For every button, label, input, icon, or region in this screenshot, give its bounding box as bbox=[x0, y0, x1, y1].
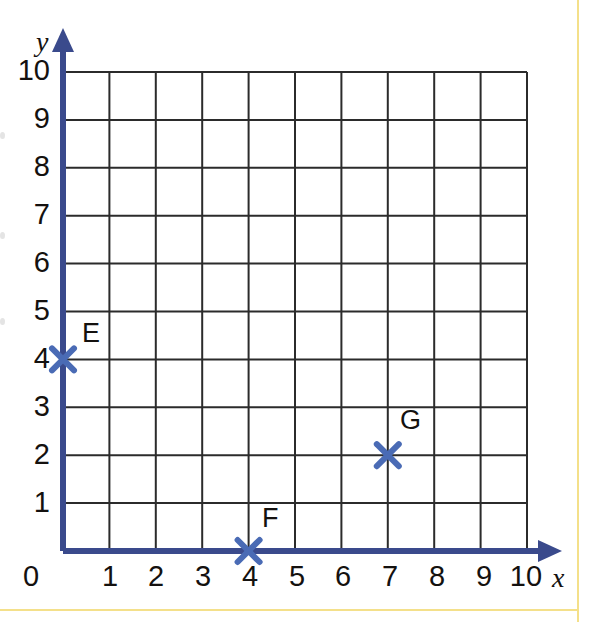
y-tick-7: 7 bbox=[6, 200, 50, 229]
y-tick-9: 9 bbox=[6, 104, 50, 133]
y-tick-2: 2 bbox=[6, 440, 50, 469]
point-label-G: G bbox=[400, 407, 421, 434]
y-axis-name: y bbox=[36, 26, 48, 58]
x-tick-7: 7 bbox=[367, 562, 413, 591]
x-tick-6: 6 bbox=[320, 562, 366, 591]
x-tick-9: 9 bbox=[461, 562, 507, 591]
y-tick-3: 3 bbox=[6, 392, 50, 421]
y-tick-6: 6 bbox=[6, 248, 50, 277]
x-tick-10: 10 bbox=[503, 562, 549, 591]
x-tick-0: 0 bbox=[8, 562, 54, 591]
worksheet-page: 10 9 8 7 6 5 4 3 2 1 0 1 2 3 4 5 6 7 8 9… bbox=[0, 0, 601, 622]
x-axis-name: x bbox=[552, 562, 564, 594]
y-tick-8: 8 bbox=[6, 152, 50, 181]
x-tick-1: 1 bbox=[87, 562, 133, 591]
point-label-F: F bbox=[262, 505, 279, 532]
x-tick-5: 5 bbox=[274, 562, 320, 591]
y-tick-10: 10 bbox=[6, 56, 50, 85]
point-label-E: E bbox=[82, 320, 100, 347]
coordinate-grid-plot bbox=[0, 0, 601, 622]
x-tick-2: 2 bbox=[133, 562, 179, 591]
y-tick-5: 5 bbox=[6, 296, 50, 325]
y-tick-1: 1 bbox=[6, 488, 50, 517]
x-tick-8: 8 bbox=[414, 562, 460, 591]
x-tick-4: 4 bbox=[227, 562, 273, 591]
grid-lines bbox=[63, 72, 527, 551]
x-tick-3: 3 bbox=[180, 562, 226, 591]
axis-lines bbox=[52, 28, 562, 562]
y-tick-4: 4 bbox=[6, 344, 50, 373]
